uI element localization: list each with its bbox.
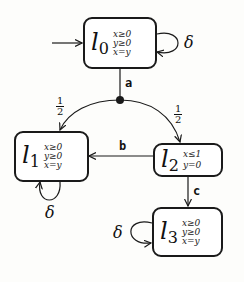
location-name: l0 — [91, 30, 109, 57]
branch-right — [120, 100, 180, 142]
location-l2[interactable]: l2 x≤1 y=0 — [153, 143, 223, 177]
action-label-a: a — [125, 76, 132, 90]
delta-label-l3: δ — [113, 223, 123, 242]
action-label-b: b — [119, 139, 126, 153]
branch-left — [60, 100, 120, 130]
delta-label-l0: δ — [184, 33, 194, 52]
delta-label-l1: δ — [45, 203, 55, 222]
l3-self-loop — [131, 222, 152, 243]
invariant: x≥0 y≥0 x=y — [44, 143, 62, 170]
invariant: x≥0 y≥0 x=y — [182, 219, 200, 246]
invariant: x≤1 y=0 — [183, 149, 201, 171]
location-l0[interactable]: l0 x≥0 y≥0 x=y — [83, 17, 157, 69]
location-name: l2 — [161, 147, 179, 174]
location-name: l1 — [22, 143, 40, 170]
action-label-c: c — [193, 184, 200, 198]
prob-label-right: 12 — [174, 104, 182, 125]
location-name: l3 — [160, 219, 178, 246]
prob-label-left: 12 — [56, 96, 64, 117]
location-l1[interactable]: l1 x≥0 y≥0 x=y — [14, 131, 89, 182]
invariant: x≥0 y≥0 x=y — [113, 30, 131, 57]
location-l3[interactable]: l3 x≥0 y≥0 x=y — [152, 207, 223, 257]
l1-self-loop — [40, 182, 61, 200]
l0-self-loop — [157, 33, 178, 53]
automaton-diagram: l0 x≥0 y≥0 x=y l1 x≥0 y≥0 x=y l2 x≤1 y=0… — [0, 0, 244, 282]
